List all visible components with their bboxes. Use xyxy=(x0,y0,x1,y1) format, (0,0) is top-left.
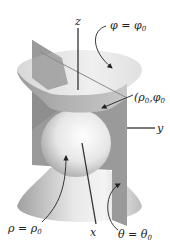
cone-label: φ = φ0 xyxy=(110,19,147,33)
x-axis-label: x xyxy=(90,226,97,239)
y-axis-label: y xyxy=(156,122,164,135)
sphere-label: ρ = ρ0 xyxy=(7,222,42,236)
plane-label: θ = θ0 xyxy=(118,228,152,242)
spherical-coordinates-diagram: z y x φ = φ0 (ρ0,φ0 ρ = ρ0 θ = θ0 xyxy=(0,0,170,248)
sphere xyxy=(41,109,111,177)
z-axis-label: z xyxy=(74,15,81,28)
point-label: (ρ0,φ0 xyxy=(134,91,165,105)
